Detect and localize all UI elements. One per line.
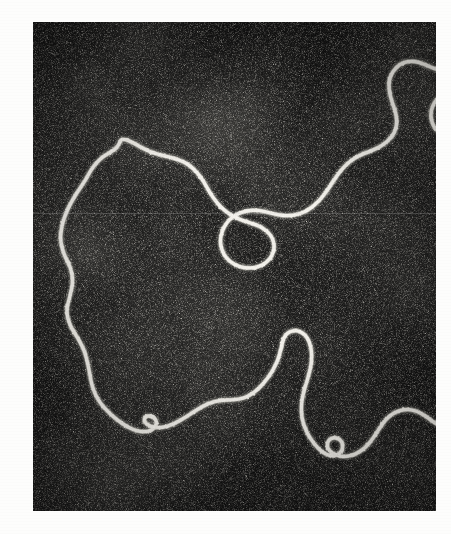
figure-label bbox=[0, 0, 1, 1]
electron-micrograph-image bbox=[33, 22, 436, 511]
page-bottom-margin bbox=[0, 511, 451, 534]
figure-caption bbox=[0, 0, 1, 1]
specimen-description: circular DNA molecule (relaxed / open-ci… bbox=[0, 0, 1, 1]
micrograph-page: circular DNA molecule (relaxed / open-ci… bbox=[0, 0, 451, 534]
scale-bar-label bbox=[0, 0, 1, 1]
micrograph-plate bbox=[33, 22, 436, 511]
